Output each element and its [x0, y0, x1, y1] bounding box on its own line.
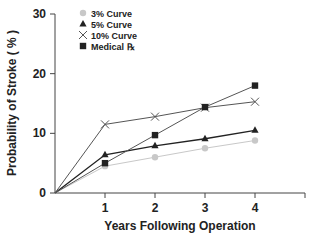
legend-label: 10% Curve [91, 31, 137, 41]
y-tick-label: 30 [33, 7, 47, 21]
axes: 01020301234 [33, 7, 305, 215]
y-axis-title: Probability of Stroke ( % ) [5, 30, 19, 176]
x-tick-label: 2 [152, 201, 159, 215]
x-tick-label: 3 [202, 201, 209, 215]
x-axis-title: Years Following Operation [104, 219, 255, 233]
y-tick-label: 10 [33, 126, 47, 140]
triangle-marker-icon [251, 126, 258, 133]
series-line [55, 130, 255, 193]
legend-square-icon [80, 43, 86, 49]
data-series [55, 82, 259, 193]
circle-marker-icon [202, 145, 208, 151]
legend-label: 5% Curve [91, 20, 132, 30]
legend-label: Medical ℞ [91, 42, 135, 52]
line-chart: 01020301234 3% Curve5% Curve10% CurveMed… [0, 0, 313, 239]
square-marker-icon [252, 82, 258, 88]
x-tick-label: 1 [102, 201, 109, 215]
square-marker-icon [152, 132, 158, 138]
legend: 3% Curve5% Curve10% CurveMedical ℞ [79, 9, 137, 52]
square-marker-icon [202, 104, 208, 110]
legend-circle-icon [80, 10, 86, 16]
y-tick-label: 20 [33, 67, 47, 81]
circle-marker-icon [252, 137, 258, 143]
square-marker-icon [102, 160, 108, 166]
series-line [55, 140, 255, 193]
legend-label: 3% Curve [91, 9, 132, 19]
x-tick-label: 4 [252, 201, 259, 215]
y-tick-label: 0 [39, 186, 46, 200]
circle-marker-icon [152, 154, 158, 160]
legend-triangle-icon [79, 20, 86, 27]
